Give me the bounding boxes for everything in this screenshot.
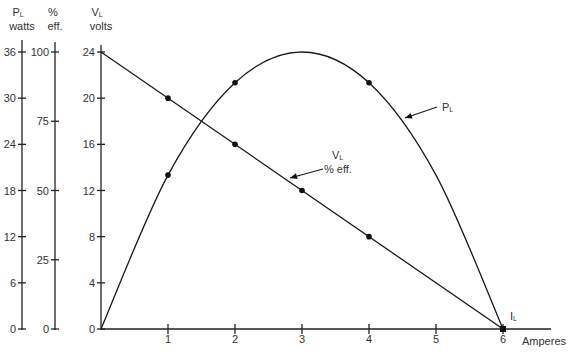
data-point-marker — [165, 95, 171, 101]
voltage-axis-unit: volts — [90, 20, 113, 32]
x-tick-label: 3 — [299, 333, 305, 345]
data-point-marker — [232, 80, 238, 86]
power-axis-unit: watts — [8, 20, 35, 32]
voltage-tick-label: 20 — [83, 92, 95, 104]
x-tick-label: 4 — [366, 333, 372, 345]
annotations-group: PLVL% eff. — [290, 101, 453, 179]
power-tick-label: 36 — [4, 46, 16, 58]
data-point-marker — [366, 80, 372, 86]
data-point-marker — [165, 172, 171, 178]
x-axis-symbol: IL — [510, 310, 517, 322]
power-tick-label: 30 — [4, 92, 16, 104]
efficiency-tick-label: 50 — [37, 185, 49, 197]
data-point-marker — [232, 142, 238, 148]
power-tick-label: 12 — [4, 231, 16, 243]
power-efficiency-chart: PLwatts061218243036%eff.0255075100VLvolt… — [0, 0, 570, 353]
vl-line-label: VL — [332, 149, 343, 161]
power-tick-label: 6 — [10, 277, 16, 289]
efficiency-tick-label: 25 — [37, 254, 49, 266]
power-axis-symbol: PL — [12, 6, 23, 18]
eff-line-label: % eff. — [324, 163, 352, 175]
x-tick-label: 5 — [433, 333, 439, 345]
voltage-tick-label: 8 — [89, 231, 95, 243]
efficiency-tick-label: 0 — [43, 323, 49, 335]
x-axis-label: Amperes — [522, 335, 567, 347]
voltage-tick-label: 0 — [89, 323, 95, 335]
power-tick-label: 0 — [10, 323, 16, 335]
arrowhead-icon — [405, 113, 413, 119]
efficiency-axis-symbol: % — [48, 6, 58, 18]
voltage-axis-symbol: VL — [91, 6, 102, 18]
voltage-tick-label: 24 — [83, 46, 95, 58]
power-tick-label: 18 — [4, 185, 16, 197]
voltage-tick-label: 12 — [83, 185, 95, 197]
x-tick-label: 2 — [232, 333, 238, 345]
axes-group: PLwatts061218243036%eff.0255075100VLvolt… — [4, 6, 567, 347]
x-tick-label: 1 — [165, 333, 171, 345]
data-point-marker — [299, 188, 305, 194]
data-point-marker — [366, 234, 372, 240]
pl-curve-label: PL — [442, 101, 453, 113]
efficiency-tick-label: 100 — [31, 46, 49, 58]
efficiency-axis-unit: eff. — [47, 20, 62, 32]
voltage-tick-label: 4 — [89, 277, 95, 289]
x-tick-label: 6 — [500, 333, 506, 345]
series-group — [101, 52, 506, 332]
voltage-tick-label: 16 — [83, 138, 95, 150]
power-tick-label: 24 — [4, 138, 16, 150]
efficiency-tick-label: 75 — [37, 115, 49, 127]
